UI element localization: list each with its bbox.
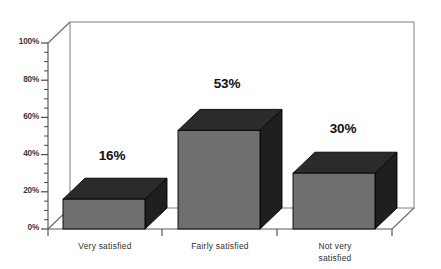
y-tick-label-100: 100% (1, 38, 39, 46)
bar-front-face (178, 130, 260, 229)
y-tick-label-0: 0% (1, 224, 39, 232)
value-label-very-satisfied: 16% (85, 148, 139, 163)
y-tick-label-80: 80% (1, 76, 39, 84)
bar-fairly-satisfied[interactable] (178, 109, 282, 229)
bar-front-face (293, 173, 375, 229)
floor-diagonal-right (392, 208, 414, 229)
bar-chart-3d: 0% 20% 40% 60% 80% 100% Very satisfied F… (0, 0, 441, 269)
bar-front-face (63, 199, 145, 229)
x-axis-ticks (48, 229, 392, 236)
category-label-not-very-satisfied: Not very satisfied (285, 240, 385, 264)
y-tick-label-60: 60% (1, 113, 39, 121)
value-label-fairly-satisfied: 53% (200, 76, 254, 91)
value-label-not-very-satisfied: 30% (316, 121, 370, 136)
bar-very-satisfied[interactable] (63, 178, 167, 229)
chart-canvas (0, 0, 441, 269)
y-tick-label-40: 40% (1, 150, 39, 158)
y-tick-label-20: 20% (1, 187, 39, 195)
wall-diagonal-top (48, 22, 70, 43)
y-axis-ticks (41, 43, 48, 229)
category-label-fairly-satisfied: Fairly satisfied (170, 240, 270, 252)
category-label-very-satisfied: Very satisfied (55, 240, 155, 252)
bar-not-very-satisfied[interactable] (293, 152, 397, 229)
